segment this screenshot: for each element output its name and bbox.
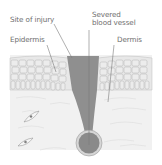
leader-site-of-injury xyxy=(54,24,72,58)
label-epidermis: Epidermis xyxy=(10,36,45,44)
skin-wound-diagram: Site of injury Epidermis Severed blood v… xyxy=(0,0,162,165)
skin-cross-section xyxy=(0,0,162,165)
label-site-of-injury: Site of injury xyxy=(10,16,54,24)
label-dermis: Dermis xyxy=(117,36,142,44)
label-severed-line2: blood vessel xyxy=(92,19,136,27)
label-severed-blood-vessel: Severed blood vessel xyxy=(92,11,136,28)
